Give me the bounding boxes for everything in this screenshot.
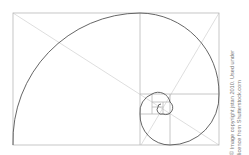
golden-spiral-diagram: [0, 0, 249, 155]
copyright-credit: © Image copyright jstan 2010. Used under…: [229, 5, 243, 155]
credit-line-2: licence from Shutterstock.com: [236, 5, 243, 155]
credit-line-1: © Image copyright jstan 2010. Used under: [229, 5, 236, 155]
secondary-diagonal: [141, 13, 219, 145]
main-diagonal: [13, 13, 219, 145]
diagonals: [13, 13, 219, 145]
